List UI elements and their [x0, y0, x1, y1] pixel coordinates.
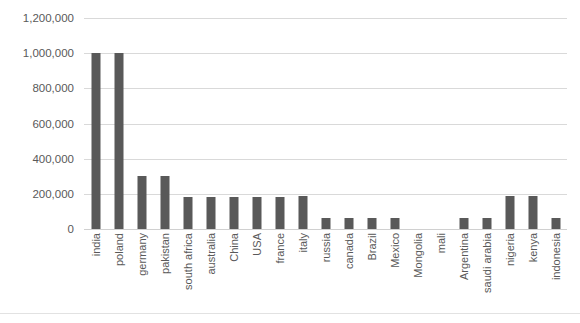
bar[interactable] [229, 197, 238, 229]
y-axis: 1,200,0001,000,000800,000600,000400,0002… [0, 0, 80, 323]
x-axis-tick: nigeria [498, 233, 521, 319]
x-axis-tick-label: france [274, 233, 285, 264]
x-axis-tick: poland [107, 233, 130, 319]
x-axis-tick: Mongolia [406, 233, 429, 319]
bar[interactable] [551, 218, 560, 229]
x-axis-tick-label: pakistan [159, 233, 170, 274]
x-axis-tick: pakistan [153, 233, 176, 319]
y-axis-tick-label: 1,000,000 [0, 47, 74, 59]
bar[interactable] [298, 196, 307, 229]
x-axis-tick: saudi arabia [475, 233, 498, 319]
bar-slot [383, 18, 406, 229]
x-axis-tick: China [222, 233, 245, 319]
x-axis: indiapolandgermanypakistansouth africaau… [84, 233, 567, 319]
bar[interactable] [390, 218, 399, 229]
bar-slot [176, 18, 199, 229]
x-axis-tick: australia [199, 233, 222, 319]
bar-slot [245, 18, 268, 229]
bar[interactable] [344, 218, 353, 229]
bar[interactable] [367, 218, 376, 229]
bars-layer [84, 18, 567, 229]
x-axis-tick: south africa [176, 233, 199, 319]
y-axis-tick-label: 1,200,000 [0, 12, 74, 24]
bar-slot [544, 18, 567, 229]
x-axis-tick: france [268, 233, 291, 319]
x-axis-tick-label: indonesia [550, 233, 561, 280]
y-axis-tick-label: 0 [0, 223, 74, 235]
x-axis-tick-label: india [90, 233, 101, 256]
bar[interactable] [160, 176, 169, 229]
bar[interactable] [321, 218, 330, 229]
bar[interactable] [275, 197, 284, 229]
y-axis-tick-label: 200,000 [0, 188, 74, 200]
x-axis-tick-label: canada [343, 233, 354, 269]
x-axis-tick-label: australia [205, 233, 216, 275]
bar-slot [475, 18, 498, 229]
bar-slot [199, 18, 222, 229]
x-axis-tick-label: Argentina [458, 233, 469, 280]
x-axis-tick-label: germany [136, 233, 147, 276]
x-axis-tick-label: USA [251, 233, 262, 256]
bar-slot [429, 18, 452, 229]
x-axis-tick-label: nigeria [504, 233, 515, 266]
x-axis-tick: mali [429, 233, 452, 319]
bar-slot [314, 18, 337, 229]
x-axis-tick-label: China [228, 233, 239, 262]
bar-slot [107, 18, 130, 229]
axis-baseline [84, 229, 567, 230]
x-axis-tick: india [84, 233, 107, 319]
bar[interactable] [137, 176, 146, 229]
x-axis-tick: USA [245, 233, 268, 319]
bar-slot [337, 18, 360, 229]
bar-slot [498, 18, 521, 229]
plot-area [84, 18, 567, 229]
x-axis-tick-label: russia [320, 233, 331, 262]
bottom-divider [0, 313, 580, 314]
bar[interactable] [505, 196, 514, 229]
bar[interactable] [206, 197, 215, 229]
bar-slot [130, 18, 153, 229]
bar[interactable] [482, 218, 491, 229]
y-axis-tick-label: 800,000 [0, 82, 74, 94]
bar-slot [222, 18, 245, 229]
x-axis-tick-label: mali [435, 233, 446, 253]
y-axis-tick-label: 600,000 [0, 118, 74, 130]
x-axis-tick-label: italy [297, 233, 308, 253]
x-axis-tick: Brazil [360, 233, 383, 319]
x-axis-tick: kenya [521, 233, 544, 319]
x-axis-tick-label: Mongolia [412, 233, 423, 278]
bar-slot [268, 18, 291, 229]
x-axis-tick-label: Mexico [389, 233, 400, 268]
x-axis-tick: italy [291, 233, 314, 319]
bar-slot [406, 18, 429, 229]
x-axis-tick-label: saudi arabia [481, 233, 492, 293]
bar-chart: 1,200,0001,000,000800,000600,000400,0002… [0, 0, 580, 323]
bar[interactable] [183, 197, 192, 229]
y-axis-tick-label: 400,000 [0, 153, 74, 165]
bar[interactable] [459, 218, 468, 229]
x-axis-tick: germany [130, 233, 153, 319]
bar[interactable] [91, 53, 100, 229]
bar-slot [452, 18, 475, 229]
bar[interactable] [252, 197, 261, 229]
x-axis-tick: Mexico [383, 233, 406, 319]
x-axis-tick: canada [337, 233, 360, 319]
x-axis-tick-label: kenya [527, 233, 538, 262]
bar-slot [360, 18, 383, 229]
x-axis-tick-label: poland [113, 233, 124, 266]
x-axis-tick-label: south africa [182, 233, 193, 290]
x-axis-tick: russia [314, 233, 337, 319]
bar-slot [153, 18, 176, 229]
x-axis-tick-label: Brazil [366, 233, 377, 261]
bar-slot [84, 18, 107, 229]
bar[interactable] [528, 196, 537, 229]
bar[interactable] [114, 53, 123, 229]
bar-slot [291, 18, 314, 229]
bar-slot [521, 18, 544, 229]
x-axis-tick: Argentina [452, 233, 475, 319]
x-axis-tick: indonesia [544, 233, 567, 319]
